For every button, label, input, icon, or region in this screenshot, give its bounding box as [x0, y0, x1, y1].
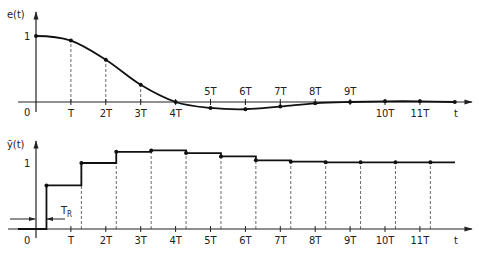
x-tick-label: 11T: [411, 234, 431, 247]
top-t-label: t: [454, 107, 458, 120]
sample-point: [243, 107, 247, 111]
x-tick-label: 8T: [309, 234, 322, 247]
sample-point: [209, 106, 213, 110]
x-tick-label: 7T: [274, 85, 287, 98]
sample-point: [393, 160, 397, 164]
x-tick-label: 6T: [239, 85, 252, 98]
x-tick-label: 3T: [135, 234, 148, 247]
sample-point: [174, 100, 178, 104]
x-tick-label: 3T: [135, 107, 148, 120]
bottom-tick-labels: T2T3T4T5T6T7T8T9T10T11T: [67, 234, 430, 247]
top-curve: [36, 36, 455, 109]
sample-point: [44, 183, 48, 187]
bottom-t-label: t: [454, 234, 458, 247]
top-y-label: e(t): [7, 8, 25, 21]
bottom-chart: TR ȳ(t) 1 0 t T2T3T4T5T6T7T8T9T10T11T: [7, 138, 472, 247]
sample-point: [149, 148, 153, 152]
sample-point: [104, 58, 108, 62]
x-tick-label: 5T: [204, 234, 217, 247]
bottom-origin-label: 0: [24, 234, 30, 247]
sample-point: [383, 99, 387, 103]
sample-point: [348, 100, 352, 104]
x-tick-label: 7T: [274, 234, 287, 247]
x-tick-label: 9T: [344, 85, 357, 98]
x-tick-label: T: [67, 107, 75, 120]
sample-point: [324, 160, 328, 164]
top-origin-label: 0: [24, 106, 30, 119]
x-tick-label: 11T: [411, 107, 431, 120]
chart-canvas: e(t) 1 0 t T2T3T4T5T6T7T8T9T10T11T TR ȳ(…: [0, 0, 479, 254]
sample-point: [289, 160, 293, 164]
sample-point: [418, 99, 422, 103]
sample-point: [79, 161, 83, 165]
x-tick-label: 10T: [376, 234, 396, 247]
x-tick-label: 5T: [204, 85, 217, 98]
top-drop-lines: [71, 41, 420, 110]
x-tick-label: 6T: [239, 234, 252, 247]
sample-point: [428, 160, 432, 164]
sample-point: [184, 151, 188, 155]
tr-label: TR: [60, 204, 72, 219]
sample-point: [453, 100, 457, 104]
top-chart: e(t) 1 0 t T2T3T4T5T6T7T8T9T10T11T: [7, 8, 472, 120]
sample-point: [139, 83, 143, 87]
x-tick-label: 9T: [344, 234, 357, 247]
x-tick-label: 4T: [169, 234, 182, 247]
sample-point: [219, 154, 223, 158]
sample-point: [34, 34, 38, 38]
bottom-y-label: ȳ(t): [7, 138, 25, 151]
x-tick-label: 8T: [309, 85, 322, 98]
bottom-y-tick-1: 1: [24, 157, 30, 170]
sample-point: [313, 101, 317, 105]
x-tick-label: 10T: [376, 107, 396, 120]
top-y-tick-1: 1: [24, 30, 30, 43]
sample-point: [278, 105, 282, 109]
x-tick-label: 4T: [169, 107, 182, 120]
x-tick-label: 2T: [100, 107, 113, 120]
bottom-markers: [44, 148, 432, 187]
x-tick-label: 2T: [100, 234, 113, 247]
x-tick-label: T: [67, 234, 75, 247]
sample-point: [114, 150, 118, 154]
sample-point: [254, 158, 258, 162]
bottom-step-curve: [18, 150, 455, 229]
sample-point: [359, 160, 363, 164]
sample-point: [69, 39, 73, 43]
